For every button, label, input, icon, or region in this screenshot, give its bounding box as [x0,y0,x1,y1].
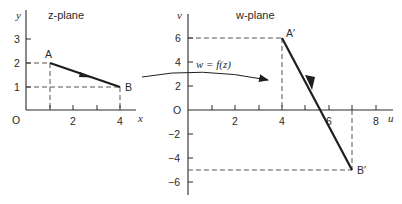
z-plane-title: z-plane [48,9,84,21]
z-x-axis-label: x [137,112,143,124]
w-v-tick-neg6: −6 [168,176,180,188]
z-x-tick-4: 4 [117,115,123,127]
w-v-tick-6: 6 [175,32,181,44]
z-y-axis-label: y [15,9,21,21]
z-x-tick-2: 2 [70,115,76,127]
w-u-axis-label: u [388,112,394,124]
conformal-mapping-diagram: z-plane y x O 1 2 3 2 4 A B w = f( [0,0,402,204]
w-v-tick-2: 2 [175,80,181,92]
w-v-tick-neg4: −4 [168,152,180,164]
z-point-a-label: A [45,48,52,60]
w-segment-ab [282,38,352,170]
w-v-axis-label: v [177,9,182,21]
w-u-tick-2: 2 [232,115,238,127]
z-plane: z-plane y x O 1 2 3 2 4 A B [12,9,143,127]
z-direction-arrow-icon [79,72,92,78]
z-origin-label: O [12,114,20,126]
w-u-tick-4: 4 [279,115,285,127]
z-y-tick-2: 2 [14,57,20,69]
w-point-a-label: A′ [286,27,295,39]
z-y-tick-1: 1 [14,81,20,93]
w-plane: w-plane v u O 6 4 2 −2 −4 −6 2 4 6 8 [168,9,394,195]
w-point-b-label: B′ [357,164,366,176]
mapping-label: w = f(z) [196,58,231,71]
w-origin-label: O [173,104,181,116]
w-v-tick-4: 4 [175,56,181,68]
mapping-arrow: w = f(z) [142,58,268,80]
w-plane-title: w-plane [235,9,275,21]
z-y-tick-3: 3 [14,33,20,45]
z-point-b-label: B [125,81,132,93]
w-v-tick-neg2: −2 [168,128,180,140]
w-u-tick-8: 8 [373,115,379,127]
